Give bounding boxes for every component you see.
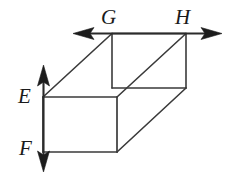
figure-canvas: [0, 0, 239, 175]
line-GH: [73, 28, 222, 40]
vertex-label-g: G: [101, 7, 116, 28]
cuboid-receding-edges: [43, 34, 186, 153]
edge-receding-bottom-right: [117, 88, 186, 152]
vertex-label-h: H: [175, 7, 190, 28]
vertex-label-e: E: [18, 86, 31, 107]
geometry-figure: G H E F: [0, 0, 239, 175]
cuboid-back-edges: [112, 34, 186, 89]
vertex-label-f: F: [19, 138, 32, 159]
line-EF: [38, 65, 50, 172]
cuboid-front-face: [43, 97, 117, 152]
edge-receding-top-left: [43, 34, 112, 98]
